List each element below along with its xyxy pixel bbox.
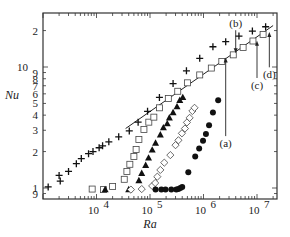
x-tick-exponent: 6 xyxy=(211,198,217,210)
plus-marker xyxy=(73,160,80,167)
plus-marker xyxy=(126,127,133,134)
plus-marker xyxy=(56,172,63,179)
square-marker xyxy=(250,38,256,44)
annotation-label: (d) xyxy=(263,68,276,81)
y-tick-label: 9 xyxy=(33,67,39,79)
x-tick-exponent: 7 xyxy=(264,198,270,210)
diamond-marker xyxy=(161,159,168,166)
y-tick-label: 4 xyxy=(33,109,39,121)
plus-marker xyxy=(144,108,151,115)
circle-marker xyxy=(163,187,169,193)
triangle-marker xyxy=(135,177,142,183)
square-marker xyxy=(141,126,147,132)
circle-marker xyxy=(215,97,221,103)
annotation-label: (b) xyxy=(229,17,242,30)
plus-marker xyxy=(78,155,85,162)
triangle-marker xyxy=(149,146,156,152)
square-marker xyxy=(230,52,236,58)
square-marker xyxy=(240,44,246,50)
y-tick-label: 2 xyxy=(33,25,39,37)
diamond-marker xyxy=(138,185,145,192)
triangle-marker xyxy=(164,120,171,126)
square-marker xyxy=(260,31,266,37)
x-axis-title: Ra xyxy=(142,217,156,231)
series-square-open xyxy=(89,31,266,192)
arrowhead-icon xyxy=(267,32,271,37)
square-marker xyxy=(124,168,130,174)
plus-marker xyxy=(196,55,203,62)
series-circle-filled xyxy=(153,97,222,192)
annotation-label: (c) xyxy=(251,79,264,92)
square-marker xyxy=(165,95,171,101)
circle-marker xyxy=(196,146,202,152)
triangle-marker xyxy=(145,154,152,160)
triangle-marker xyxy=(152,139,159,145)
plus-marker xyxy=(235,33,242,40)
square-marker xyxy=(156,105,162,111)
diamond-marker xyxy=(157,166,164,173)
plus-marker xyxy=(135,119,142,126)
nu-vs-ra-chart: 104105106107 9123456789102 (a)(b)(c)(d) … xyxy=(0,0,290,237)
plus-marker xyxy=(45,183,52,190)
y-tick-label: 1 xyxy=(33,182,39,194)
plus-marker xyxy=(170,80,177,87)
square-marker xyxy=(89,186,95,192)
plus-marker xyxy=(222,38,229,45)
x-tick-exponent: 4 xyxy=(104,198,110,210)
y-tick-label: 3 xyxy=(33,124,39,136)
annotations: (a)(b)(c)(d) xyxy=(220,17,276,150)
circle-marker xyxy=(185,169,191,175)
square-marker xyxy=(131,154,137,160)
plus-marker xyxy=(249,28,256,35)
x-axis-ticks: 104105106107 xyxy=(43,13,273,216)
circle-marker xyxy=(179,184,185,190)
x-tick-label: 10 xyxy=(88,204,100,216)
x-tick-label: 10 xyxy=(142,204,154,216)
square-marker xyxy=(136,136,142,142)
annotation-label: (a) xyxy=(220,137,233,150)
triangle-marker xyxy=(170,109,177,115)
square-marker xyxy=(208,65,214,71)
circle-marker xyxy=(153,187,159,193)
circle-marker xyxy=(192,154,198,160)
square-marker xyxy=(110,183,116,189)
plus-marker xyxy=(156,94,163,101)
triangle-marker xyxy=(142,162,149,168)
plus-marker xyxy=(65,168,72,175)
triangle-marker xyxy=(157,131,164,137)
x-tick-label: 10 xyxy=(249,204,261,216)
y-tick-label: 2 xyxy=(33,146,39,158)
y-axis-title: Nu xyxy=(4,88,19,102)
square-marker xyxy=(151,114,157,120)
circle-marker xyxy=(206,122,212,128)
circle-marker xyxy=(210,110,216,116)
square-marker xyxy=(127,161,133,167)
square-marker xyxy=(175,88,181,94)
triangle-marker xyxy=(138,170,145,176)
plus-marker xyxy=(105,138,112,145)
circle-marker xyxy=(203,131,209,137)
x-tick-label: 10 xyxy=(195,204,207,216)
square-marker xyxy=(184,80,190,86)
y-tick-label: 10 xyxy=(17,61,29,73)
diamond-marker xyxy=(167,152,174,159)
circle-marker xyxy=(200,138,206,144)
plus-marker xyxy=(209,43,216,50)
plus-marker xyxy=(115,133,122,140)
x-tick-exponent: 5 xyxy=(157,198,163,210)
plus-marker xyxy=(183,67,190,74)
triangle-marker xyxy=(174,103,181,109)
square-marker xyxy=(219,59,225,65)
square-marker xyxy=(197,72,203,78)
plus-marker xyxy=(57,178,64,185)
square-marker xyxy=(133,147,139,153)
square-marker xyxy=(121,176,127,182)
